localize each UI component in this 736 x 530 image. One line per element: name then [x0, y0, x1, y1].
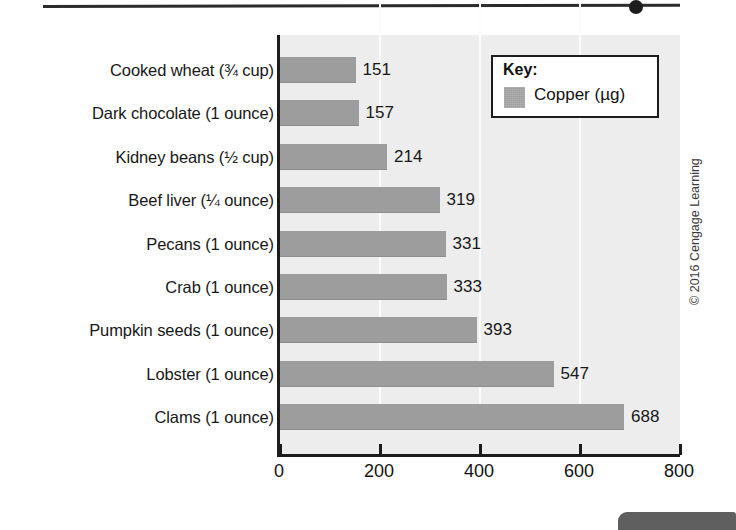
page-corner-tab — [618, 512, 736, 530]
bar-value-label: 547 — [561, 364, 589, 384]
bar-value-label: 319 — [447, 190, 475, 210]
bar-row: Pumpkin seeds (1 ounce)393 — [0, 317, 736, 343]
bar-value-label: 151 — [363, 60, 391, 80]
copyright-credit: © 2016 Cengage Learning — [688, 158, 702, 305]
legend-series-label: Copper (µg) — [534, 85, 625, 105]
category-label: Kidney beans (½ cup) — [115, 147, 274, 166]
bar — [280, 100, 359, 126]
bar-row: Pecans (1 ounce)331 — [0, 231, 736, 257]
bar — [280, 317, 477, 343]
bar-value-label: 331 — [453, 234, 481, 254]
bar-value-label: 333 — [454, 277, 482, 297]
bar-row: Kidney beans (½ cup)214 — [0, 144, 736, 170]
x-axis-tick-label: 200 — [364, 461, 394, 482]
category-label: Dark chocolate (1 ounce) — [92, 104, 274, 123]
bar — [280, 361, 554, 387]
legend-title: Key: — [503, 61, 538, 79]
category-label: Cooked wheat (¾ cup) — [110, 61, 274, 80]
bar — [280, 274, 447, 300]
category-label: Clams (1 ounce) — [154, 408, 274, 427]
bar — [280, 404, 624, 430]
x-axis-tick — [279, 444, 282, 455]
x-axis-tick-label: 400 — [464, 461, 494, 482]
category-label: Pumpkin seeds (1 ounce) — [89, 321, 274, 340]
bar — [280, 187, 440, 213]
x-axis-tick-label: 0 — [274, 461, 284, 482]
category-label: Crab (1 ounce) — [165, 278, 274, 297]
x-axis-tick-label: 800 — [664, 461, 694, 482]
bar — [280, 57, 356, 83]
category-label: Beef liver (¼ ounce) — [128, 191, 274, 210]
bar-value-label: 157 — [366, 103, 394, 123]
bar — [280, 144, 387, 170]
category-label: Pecans (1 ounce) — [146, 234, 274, 253]
x-axis-tick — [679, 444, 682, 455]
bar-value-label: 214 — [394, 147, 422, 167]
bar-row: Crab (1 ounce)333 — [0, 274, 736, 300]
x-axis-tick — [579, 444, 582, 455]
bar-value-label: 393 — [484, 320, 512, 340]
bar-value-label: 688 — [631, 407, 659, 427]
bar — [280, 231, 446, 257]
x-axis-tick-label: 600 — [564, 461, 594, 482]
x-axis-tick — [479, 444, 482, 455]
x-axis-tick — [379, 444, 382, 455]
bar-row: Beef liver (¼ ounce)319 — [0, 187, 736, 213]
bar-row: Clams (1 ounce)688 — [0, 404, 736, 430]
legend-swatch-icon — [504, 87, 525, 108]
legend: Key: Copper (µg) — [491, 55, 659, 118]
category-label: Lobster (1 ounce) — [146, 364, 274, 383]
bar-row: Lobster (1 ounce)547 — [0, 361, 736, 387]
